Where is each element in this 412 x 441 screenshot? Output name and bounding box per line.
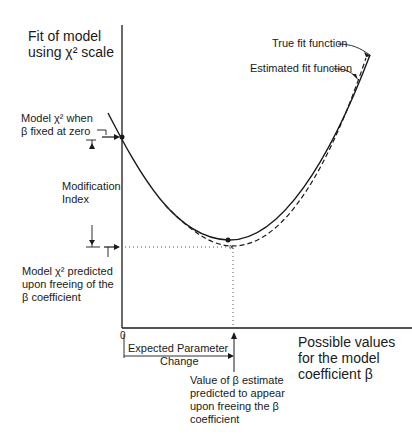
annotation-line: upon freeing the β bbox=[190, 400, 285, 413]
beta-estimate-label: Value of β estimate predicted to appear … bbox=[190, 374, 285, 426]
estimated-fit-curve bbox=[165, 58, 366, 246]
estimated-fit-label: Estimated fit function bbox=[250, 62, 352, 75]
y-axis-label-line: using χ² scale bbox=[28, 44, 114, 60]
y-axis-label-line: Fit of model bbox=[28, 28, 114, 44]
intercept-point bbox=[120, 135, 125, 140]
origin-label: 0 bbox=[120, 330, 126, 342]
y-axis-label: Fit of model using χ² scale bbox=[28, 28, 114, 60]
x-axis-label: Possible values for the model coefficien… bbox=[298, 334, 395, 382]
model-chi2-predicted-label: Model χ² predicted upon freeing of the β… bbox=[22, 265, 114, 304]
x-axis-label-line: Possible values bbox=[298, 334, 395, 350]
annotation-line: coefficient bbox=[190, 413, 285, 426]
modification-index-label: Modification Index bbox=[62, 180, 121, 206]
x-axis-label-line: for the model bbox=[298, 350, 395, 366]
annotation-line: β fixed at zero bbox=[21, 125, 93, 138]
model-chi2-fixed-label: Model χ² when β fixed at zero bbox=[21, 112, 93, 138]
annotation-line: upon freeing of the bbox=[22, 278, 114, 291]
x-axis-label-line: coefficient β bbox=[298, 366, 395, 382]
annotation-line: Model χ² predicted bbox=[22, 265, 114, 278]
true-fit-label: True fit function bbox=[272, 37, 347, 50]
annotation-line: Change bbox=[128, 355, 228, 368]
annotation-line: Model χ² when bbox=[21, 112, 93, 125]
annotation-line: Expected Parameter bbox=[128, 342, 228, 355]
annotation-line: Modification bbox=[62, 180, 121, 193]
annotation-line: β coefficient bbox=[22, 291, 114, 304]
annotation-line: Value of β estimate bbox=[190, 374, 285, 387]
expected-parameter-change-label: Expected Parameter Change bbox=[128, 342, 228, 368]
annotation-line: Index bbox=[62, 193, 121, 206]
annotation-line: predicted to appear bbox=[190, 387, 285, 400]
